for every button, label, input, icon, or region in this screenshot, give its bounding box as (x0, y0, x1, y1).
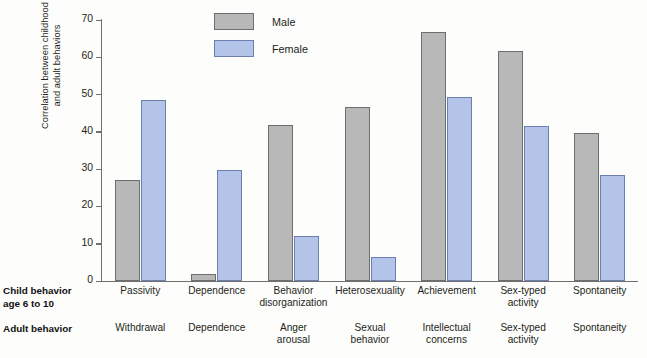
bar-male-0 (115, 180, 140, 281)
bar-male-1 (191, 274, 216, 281)
y-tick-label-30: 30 (71, 162, 93, 173)
bar-female-6 (600, 175, 625, 281)
y-tick-label-50: 50 (71, 88, 93, 99)
y-tick-label-40: 40 (71, 125, 93, 136)
bar-male-6 (574, 133, 599, 281)
x-axis-line (101, 281, 638, 282)
y-tick-70 (96, 20, 101, 21)
bar-male-5 (498, 51, 523, 281)
y-axis-title: Correlation between childhood and adult … (40, 0, 63, 181)
y-tick-60 (96, 57, 101, 58)
bar-male-4 (421, 32, 446, 281)
y-tick-label-20: 20 (71, 199, 93, 210)
y-tick-30 (96, 169, 101, 170)
y-tick-label-60: 60 (71, 50, 93, 61)
bar-chart-figure: Correlation between childhood and adult … (0, 0, 647, 358)
child-behavior-row-label-line2: age 6 to 10 (3, 298, 99, 311)
child-behavior-row-label: Child behavior age 6 to 10 (3, 285, 99, 310)
bar-female-2 (294, 236, 319, 281)
y-tick-label-10: 10 (71, 237, 93, 248)
adult-behavior-label-line1-6: Spontaneity (551, 322, 647, 334)
child-behavior-label-line2-2: disorganization (245, 297, 342, 309)
bar-female-4 (447, 97, 472, 281)
bar-female-0 (141, 100, 166, 281)
child-behavior-row-label-line1: Child behavior (3, 285, 99, 298)
adult-behavior-row-label: Adult behavior (3, 323, 99, 336)
adult-behavior-label-6: Spontaneity (551, 322, 647, 334)
adult-behavior-label-line2-5: activity (475, 334, 572, 346)
bar-male-2 (268, 125, 293, 281)
y-tick-10 (96, 243, 101, 244)
y-tick-0 (96, 281, 101, 282)
y-tick-40 (96, 131, 101, 132)
bar-female-5 (524, 126, 549, 281)
y-tick-label-0: 0 (71, 274, 93, 285)
y-axis-title-line1: Correlation between childhood (40, 0, 52, 181)
adult-behavior-row-label-line1: Adult behavior (3, 323, 99, 336)
bars-layer (102, 20, 638, 281)
y-tick-20 (96, 206, 101, 207)
y-tick-label-70: 70 (71, 13, 93, 24)
child-behavior-label-line2-5: activity (475, 297, 572, 309)
child-behavior-label-6: Spontaneity (551, 285, 647, 297)
bar-female-1 (217, 170, 242, 281)
bar-male-3 (345, 107, 370, 281)
bar-female-3 (371, 257, 396, 281)
child-behavior-label-line1-6: Spontaneity (551, 285, 647, 297)
y-tick-50 (96, 94, 101, 95)
y-axis-title-line2: and adult behaviors (51, 0, 63, 181)
